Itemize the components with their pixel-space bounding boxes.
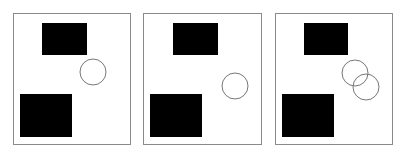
- panel-1: [14, 14, 131, 145]
- black-rectangle: [304, 23, 348, 55]
- black-rectangle: [282, 94, 334, 137]
- panel-3: [276, 14, 393, 145]
- diagram-canvas: [0, 0, 398, 152]
- black-rectangle: [150, 94, 202, 137]
- panel-2: [144, 14, 262, 145]
- black-rectangle: [173, 23, 218, 55]
- black-rectangle: [42, 23, 87, 55]
- black-rectangle: [20, 94, 72, 137]
